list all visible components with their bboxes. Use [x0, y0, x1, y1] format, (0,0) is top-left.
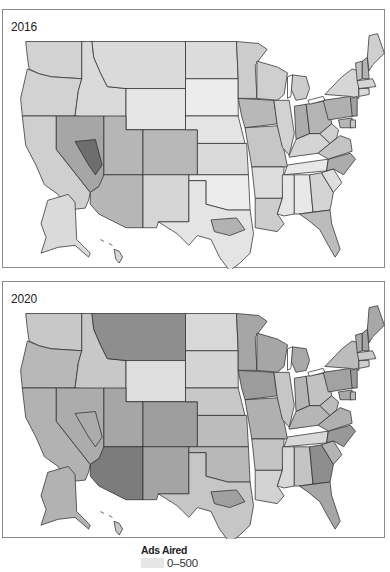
state-md: [339, 118, 353, 128]
state-mt: [92, 42, 186, 89]
state-hi: [101, 511, 123, 535]
state-me: [367, 306, 384, 343]
state-ny: [325, 69, 359, 98]
state-mi: [291, 75, 310, 100]
map-panel-2020: 2020: [2, 281, 385, 538]
state-sd: [186, 79, 239, 116]
state-ma: [357, 351, 376, 361]
legend-swatch: [141, 558, 164, 568]
state-nm: [143, 175, 189, 228]
state-me: [367, 34, 384, 71]
state-ar: [252, 167, 284, 198]
state-wy: [126, 361, 186, 402]
state-wi: [257, 61, 288, 100]
state-md: [339, 390, 353, 400]
state-co: [143, 402, 197, 447]
state-ia: [238, 98, 277, 127]
legend-item: 0–500: [141, 557, 198, 569]
state-mt: [92, 314, 186, 361]
state-pa: [323, 368, 354, 392]
legend: Ads Aired 0–500: [141, 544, 198, 569]
state-ia: [238, 370, 277, 399]
us-map-2016: [3, 10, 386, 269]
legend-label: 0–500: [167, 557, 198, 569]
state-ct: [359, 89, 369, 97]
map-panel-2016: 2016: [2, 9, 385, 268]
state-fl: [299, 482, 340, 529]
state-ct: [359, 361, 369, 369]
legend-title: Ads Aired: [141, 544, 192, 556]
state-mi: [291, 347, 310, 372]
state-pa: [323, 96, 354, 120]
state-nd: [186, 314, 239, 351]
us-map-2020: [3, 282, 386, 539]
state-nd: [186, 42, 239, 79]
state-wy: [126, 89, 186, 130]
state-ma: [357, 79, 376, 89]
state-wi: [257, 333, 288, 372]
state-fl: [299, 210, 340, 257]
state-nm: [143, 447, 189, 500]
state-ks: [197, 415, 248, 446]
state-co: [143, 130, 197, 175]
state-ks: [197, 143, 248, 174]
state-sd: [186, 351, 239, 388]
state-de: [350, 120, 355, 128]
state-ny: [325, 341, 359, 370]
state-hi: [101, 239, 123, 263]
state-ar: [252, 439, 284, 470]
state-de: [350, 392, 355, 400]
